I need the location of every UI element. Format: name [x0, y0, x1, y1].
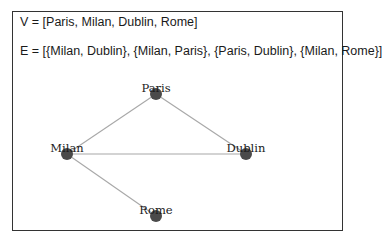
- node-label-dublin: Dublin: [227, 141, 266, 155]
- node-label-milan: Milan: [50, 141, 84, 155]
- node-label-rome: Rome: [139, 203, 172, 217]
- graph-edges: [67, 94, 246, 216]
- graph-nodes: ParisMilanDublinRome: [50, 81, 266, 222]
- node-label-paris: Paris: [141, 81, 170, 95]
